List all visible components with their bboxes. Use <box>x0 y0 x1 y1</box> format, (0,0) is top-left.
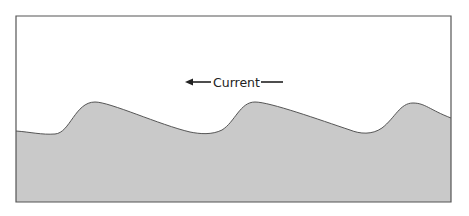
sediment-fill <box>16 102 451 202</box>
ripple-diagram: Current <box>0 0 469 216</box>
current-label-text: Current <box>213 75 260 90</box>
arrow-left-icon <box>185 79 211 86</box>
current-label: Current <box>185 75 283 90</box>
